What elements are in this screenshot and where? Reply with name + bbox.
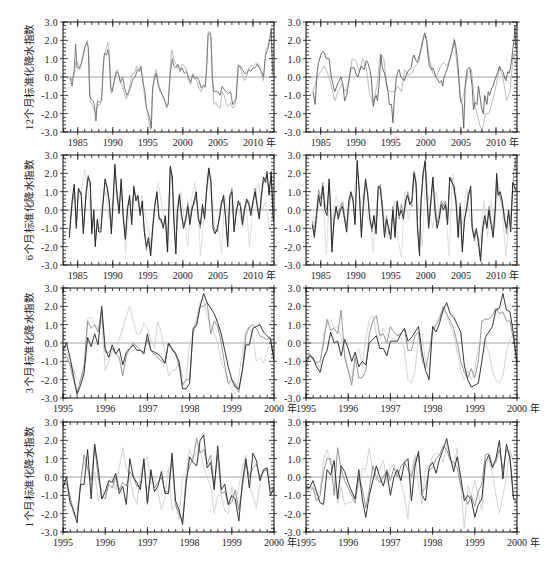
y-tick-label: 2.0 <box>45 435 58 446</box>
x-tick-label: 1995 <box>296 537 316 548</box>
x-tick-label: 2005 <box>208 137 228 148</box>
y-tick-label: -3.0 <box>41 260 58 271</box>
y-tick-label: -1.0 <box>284 90 301 101</box>
data-line-series-light <box>313 35 516 132</box>
y-tick-label: 2.0 <box>45 35 58 46</box>
x-tick-label: 1990 <box>346 137 366 148</box>
x-tick-label: 1995 <box>138 137 158 148</box>
y-tick-label: 3.0 <box>288 17 301 28</box>
chart-panel-3-month-right: 3.02.01.00.0-1.0-2.0-3.01995199619971998… <box>306 288 517 398</box>
x-tick-label: 1998 <box>423 537 443 548</box>
x-tick-label: 1995 <box>381 137 401 148</box>
y-tick-label: 1.0 <box>45 453 58 464</box>
y-tick-label: 1.0 <box>45 319 58 330</box>
y-tick-label: -1.0 <box>41 490 58 501</box>
y-tick-label: -2.0 <box>41 374 58 385</box>
x-tick-label: 1990 <box>103 137 123 148</box>
data-line-series-light <box>312 170 515 258</box>
x-tick-label: 2005 <box>451 270 471 281</box>
x-tick-label: 2000 <box>507 537 527 548</box>
y-tick-label: 1.0 <box>45 53 58 64</box>
y-tick-label: -1.0 <box>41 90 58 101</box>
x-tick-label: 2000 <box>507 403 527 414</box>
plot-area <box>63 288 274 398</box>
y-tick-label: -2.0 <box>41 508 58 519</box>
x-axis-unit-label: 年 <box>266 137 276 148</box>
data-line-series-light <box>63 299 274 394</box>
y-axis-title: 1个月标准化降水指数 <box>21 427 36 527</box>
x-tick-label: 1996 <box>338 537 358 548</box>
x-tick-label: 2010 <box>486 270 506 281</box>
x-tick-label: 1995 <box>296 403 316 414</box>
chart-panel-6-month-right: 3.02.01.00.0-1.0-2.0-3.01985199019952000… <box>306 155 517 265</box>
x-tick-label: 1998 <box>423 403 443 414</box>
y-tick-label: -2.0 <box>284 108 301 119</box>
x-tick-label: 2000 <box>416 270 436 281</box>
x-tick-label: 1990 <box>346 270 366 281</box>
x-tick-label: 1985 <box>311 270 331 281</box>
x-tick-label: 1985 <box>311 137 331 148</box>
y-tick-label: -3.0 <box>284 260 301 271</box>
plot-area <box>306 422 517 532</box>
y-tick-label: 1.0 <box>45 186 58 197</box>
y-tick-label: 2.0 <box>45 301 58 312</box>
data-line-series-dark <box>306 294 517 388</box>
data-line-series-light <box>306 310 517 383</box>
data-line-series-light <box>70 28 273 131</box>
y-tick-label: 0.0 <box>288 205 301 216</box>
y-tick-label: 3.0 <box>45 17 58 28</box>
plot-area <box>63 155 274 265</box>
y-tick-label: 3.0 <box>45 150 58 161</box>
y-tick-label: -1.0 <box>41 223 58 234</box>
y-tick-label: 3.0 <box>45 283 58 294</box>
x-axis-unit-label: 年 <box>530 403 540 414</box>
y-tick-label: -2.0 <box>284 508 301 519</box>
y-tick-label: -2.0 <box>41 241 58 252</box>
y-tick-label: -1.0 <box>284 356 301 367</box>
y-tick-label: -2.0 <box>41 108 58 119</box>
x-tick-label: 1995 <box>381 270 401 281</box>
y-tick-label: -2.0 <box>284 241 301 252</box>
data-line-series-medium <box>63 303 274 393</box>
chart-panel-6-month-left: 6个月标准化降水指数 3.02.01.00.0-1.0-2.0-3.019851… <box>63 155 274 265</box>
x-tick-label: 1998 <box>180 403 200 414</box>
x-tick-label: 2000 <box>264 403 284 414</box>
data-line-series-light <box>69 170 272 256</box>
x-tick-label: 1990 <box>103 270 123 281</box>
y-tick-label: -1.0 <box>284 490 301 501</box>
y-tick-label: 0.0 <box>45 472 58 483</box>
x-tick-label: 1999 <box>222 537 242 548</box>
x-tick-label: 2010 <box>243 270 263 281</box>
y-tick-label: 2.0 <box>288 35 301 46</box>
y-tick-label: 0.0 <box>288 472 301 483</box>
x-tick-label: 2000 <box>173 270 193 281</box>
x-axis-unit-label: 年 <box>509 137 519 148</box>
x-tick-label: 2010 <box>486 137 506 148</box>
data-line-series-dark <box>63 294 274 395</box>
x-tick-label: 1985 <box>68 137 88 148</box>
y-tick-label: -3.0 <box>284 393 301 404</box>
y-tick-label: 2.0 <box>45 168 58 179</box>
x-tick-label: 2000 <box>264 537 284 548</box>
x-tick-label: 1997 <box>137 537 157 548</box>
x-tick-label: 1999 <box>465 537 485 548</box>
plot-area <box>306 155 517 265</box>
x-tick-label: 1999 <box>465 403 485 414</box>
y-tick-label: 2.0 <box>288 301 301 312</box>
plot-area <box>63 22 274 132</box>
y-tick-label: 1.0 <box>288 319 301 330</box>
y-axis-title: 12个月标准化降水指数 <box>21 24 36 130</box>
chart-panel-3-month-left: 3个月标准化降水指数 3.02.01.00.0-1.0-2.0-3.019951… <box>63 288 274 398</box>
y-axis-title: 3个月标准化降水指数 <box>21 293 36 393</box>
x-tick-label: 1996 <box>95 403 115 414</box>
y-tick-label: 1.0 <box>288 186 301 197</box>
y-tick-label: 0.0 <box>288 338 301 349</box>
y-tick-label: 3.0 <box>45 417 58 428</box>
x-tick-label: 1995 <box>53 537 73 548</box>
y-tick-label: 3.0 <box>288 150 301 161</box>
y-tick-label: 2.0 <box>288 435 301 446</box>
x-tick-label: 2000 <box>416 137 436 148</box>
chart-panel-12-month-right: 3.02.01.00.0-1.0-2.0-3.01985199019952000… <box>306 22 517 132</box>
x-axis-unit-label: 年 <box>509 270 519 281</box>
x-axis-unit-label: 年 <box>266 270 276 281</box>
